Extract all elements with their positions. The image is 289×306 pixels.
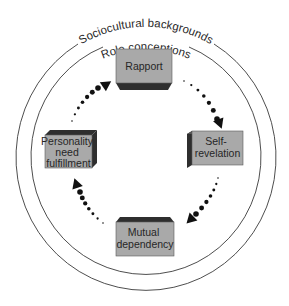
arrow-dot	[207, 101, 211, 105]
mutual-dependency-box-bevel	[116, 217, 174, 222]
arrow-dot	[196, 89, 199, 92]
wheel-theory-diagram: Sociocultural backgrounds Role conceptio…	[0, 0, 289, 306]
arrow-dot	[95, 85, 101, 91]
arrow-dot	[74, 113, 76, 115]
arrowhead-icon	[100, 81, 111, 91]
arrow-dot	[91, 212, 94, 215]
arrow-dot	[215, 183, 217, 185]
arrow-dot	[199, 206, 204, 211]
rapport-label: Rapport	[125, 60, 162, 72]
self-revelation-box-bevel	[187, 131, 192, 168]
arrow-dot	[96, 217, 98, 219]
arrow-personality-to-rapport	[71, 81, 111, 122]
arrow-dot	[211, 108, 216, 113]
arrow-dot	[102, 222, 104, 224]
arrow-dot	[209, 194, 213, 198]
arrow-dot	[77, 189, 83, 195]
arrow-dot	[85, 95, 89, 99]
stage-self-revelation: Self- revelation	[187, 131, 243, 168]
stage-rapport: Rapport	[116, 49, 172, 90]
arrow-self-revelation-to-mutual	[187, 177, 219, 223]
arrow-mutual-to-personality	[72, 178, 103, 224]
arrow-dot	[77, 107, 80, 110]
arrow-dot	[90, 90, 95, 95]
arrowhead-icon	[72, 178, 82, 189]
stage-personality-need-fulfillment: Personality need fulfillment	[41, 130, 97, 169]
arrow-dot	[202, 94, 206, 98]
arrow-dot	[87, 207, 91, 211]
arrow-dot	[193, 211, 199, 217]
arrow-dot	[71, 120, 73, 122]
arrow-rapport-to-self-revelation	[183, 80, 223, 129]
arrow-dot	[217, 177, 219, 179]
arrow-dot	[190, 84, 192, 86]
arrow-dot	[83, 201, 87, 205]
arrow-dot	[80, 195, 85, 200]
stage-mutual-dependency: Mutual dependency	[116, 217, 174, 256]
arrow-dot	[204, 200, 208, 204]
arrow-dot	[81, 101, 85, 105]
arrow-dot	[183, 80, 185, 82]
arrow-dot	[212, 189, 215, 192]
rapport-box-bevel	[116, 83, 172, 90]
